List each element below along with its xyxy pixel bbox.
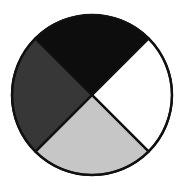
- figure-canvas: [0, 0, 183, 190]
- segmented-circle-diagram: [0, 0, 183, 190]
